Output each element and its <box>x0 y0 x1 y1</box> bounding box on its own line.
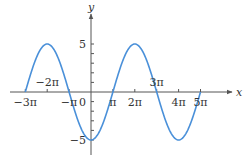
x-tick-label: −π <box>61 96 77 109</box>
x-tick-label: 4π <box>171 96 185 109</box>
x-tick-label: −2π <box>35 76 58 89</box>
x-axis-label: x <box>236 86 243 99</box>
cosine-graph: −3π−2π−ππ2π3π4π5π50−5 x y <box>0 0 244 162</box>
y-tick-label: −5 <box>70 134 86 147</box>
x-tick-label: 2π <box>128 96 142 109</box>
x-tick-label: π <box>109 96 116 109</box>
x-tick-label: −3π <box>14 96 37 109</box>
x-tick-label: 5π <box>193 96 207 109</box>
y-tick-label: 0 <box>79 96 86 109</box>
x-tick-label: 3π <box>150 76 164 89</box>
y-tick-label: 5 <box>79 38 86 51</box>
y-axis-label: y <box>87 1 95 14</box>
